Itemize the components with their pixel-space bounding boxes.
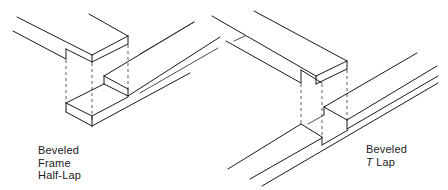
t-lap-label-line-1: Beveled (366, 143, 407, 156)
frame-half-lap-rails (140, 22, 194, 54)
frame-half-lap-label-line-3: Half-Lap (38, 169, 81, 182)
frame-half-lap-label: Beveled Frame Half-Lap (38, 144, 81, 182)
frame-half-lap-label-line-2: Frame (38, 157, 81, 170)
t-lap-label-prefix: T (366, 156, 373, 168)
t-lap-label-line-2: T Lap (366, 156, 407, 169)
frame-half-lap-label-line-1: Beveled (38, 144, 81, 157)
frame-half-lap-bottom-piece (66, 22, 220, 126)
t-lap-top-piece (212, 11, 347, 84)
frame-half-lap-top-piece (13, 14, 128, 62)
t-lap-label-suffix: Lap (376, 156, 395, 168)
t-lap-label: Beveled T Lap (366, 143, 407, 168)
